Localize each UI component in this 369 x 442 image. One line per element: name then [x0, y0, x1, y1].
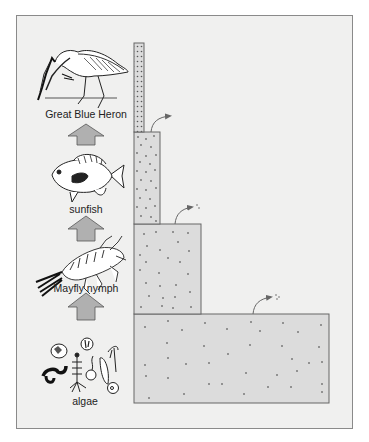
algae-label: algae	[72, 395, 98, 407]
algae-energy-bar	[134, 314, 329, 403]
sunfish-label: sunfish	[69, 203, 102, 215]
sunfish-energy-bar	[134, 132, 160, 224]
heron-icon	[38, 50, 128, 108]
mayfly-energy-bar	[134, 224, 201, 314]
up-arrow	[68, 293, 104, 320]
energy-pyramid	[0, 0, 369, 442]
algae-icon	[43, 338, 119, 394]
up-arrow	[68, 216, 104, 241]
up-arrow	[68, 124, 104, 145]
mayfly-nymph-label: Mayfly nymph	[54, 282, 119, 294]
heron-energy-bar	[134, 43, 144, 132]
fish-icon	[52, 154, 124, 202]
heron-label: Great Blue Heron	[45, 108, 127, 120]
